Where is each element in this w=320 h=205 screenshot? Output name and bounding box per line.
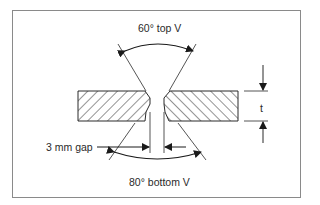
thickness-dimension xyxy=(244,65,268,143)
top-angle-arc xyxy=(125,44,193,51)
bottom-angle-arc xyxy=(114,152,201,159)
left-plate xyxy=(78,91,150,121)
thickness-label: t xyxy=(260,103,263,114)
top-angle-label: 60° top V xyxy=(138,23,181,34)
gap-label: 3 mm gap xyxy=(46,142,93,153)
bottom-angle-label: 80° bottom V xyxy=(129,177,190,188)
right-plate xyxy=(164,91,238,121)
gap-extension-lines xyxy=(150,112,164,153)
top-v-lines xyxy=(118,44,196,91)
